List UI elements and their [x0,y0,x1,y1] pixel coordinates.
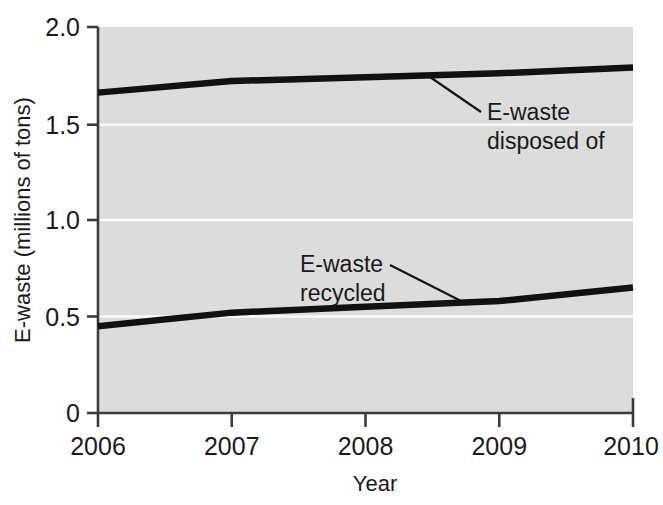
xtick-label-2009: 2009 [471,432,527,460]
y-axis-title: E-waste (millions of tons) [10,97,35,343]
x-axis-title: Year [353,471,397,496]
ytick-labels: 2.0 1.5 1.0 0.5 0 [45,13,80,427]
xtick-labels: 2006 2007 2008 2009 2010 [70,432,659,460]
annotation-recycled-line1: E-waste [300,251,383,277]
ytick-label-1-0: 1.0 [45,206,80,234]
ytick-label-0: 0 [66,399,80,427]
annotation-disposed-line2: disposed of [487,128,605,154]
ytick-label-2-0: 2.0 [45,13,80,41]
xtick-label-2008: 2008 [338,432,394,460]
xtick-label-2010: 2010 [603,432,659,460]
xtick-label-2006: 2006 [70,432,126,460]
chart-canvas: 2.0 1.5 1.0 0.5 0 2006 2007 2008 2009 20… [0,0,663,505]
annotation-disposed-line1: E-waste [487,99,570,125]
ytick-label-0-5: 0.5 [45,303,80,331]
ewaste-line-chart-figure: 2.0 1.5 1.0 0.5 0 2006 2007 2008 2009 20… [0,0,663,505]
xtick-label-2007: 2007 [204,432,260,460]
annotation-recycled-line2: recycled [300,280,386,306]
ytick-label-1-5: 1.5 [45,111,80,139]
